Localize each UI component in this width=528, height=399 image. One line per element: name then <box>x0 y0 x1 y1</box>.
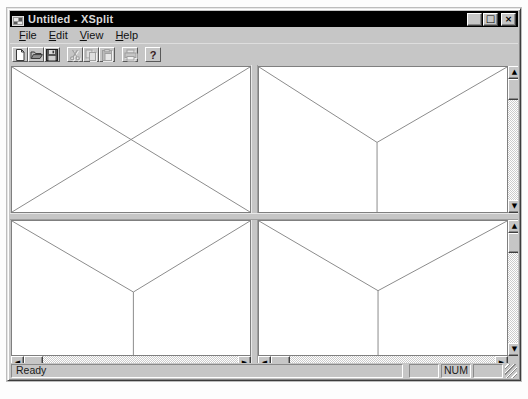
scroll-right-button[interactable]: ► <box>238 356 251 363</box>
scroll-left-button[interactable]: ◄ <box>258 356 271 363</box>
scroll-up-button[interactable]: ▲ <box>508 66 518 79</box>
scroll-up-icon: ▲ <box>512 223 517 230</box>
toolbar: ? <box>10 43 518 65</box>
window-title: Untitled - XSplit <box>28 12 464 26</box>
about-button[interactable]: ? <box>145 47 161 62</box>
splitter-client: ▲ ▼ ▲ ▼ ◄ ► ◄ ► <box>10 65 518 363</box>
open-folder-icon <box>30 49 43 61</box>
scroll-left-icon: ◄ <box>262 359 267 363</box>
horizontal-scrollbar-left[interactable]: ◄ ► <box>11 356 251 363</box>
open-button[interactable] <box>28 47 44 62</box>
vertical-scrollbar-bottom[interactable]: ▲ ▼ <box>508 220 518 356</box>
menu-view[interactable]: View <box>74 29 110 42</box>
scroll-left-button[interactable]: ◄ <box>11 356 24 363</box>
scroll-up-icon: ▲ <box>512 69 517 76</box>
title-bar[interactable]: Untitled - XSplit _ □ × <box>10 11 518 27</box>
toolbar-separator <box>138 45 145 64</box>
copy-pages-icon <box>85 49 97 61</box>
new-document-icon <box>14 49 26 61</box>
toolbar-separator <box>60 45 67 64</box>
close-button[interactable]: × <box>501 13 516 26</box>
pane-top-right-drawing <box>259 67 507 212</box>
status-message: Ready <box>11 364 403 378</box>
pane-bottom-right-drawing <box>259 221 507 355</box>
print-icon <box>124 49 137 61</box>
paste-button <box>99 47 115 62</box>
copy-button <box>83 47 99 62</box>
pane-bottom-left-drawing <box>12 221 250 355</box>
horizontal-scrollbar-thumb[interactable] <box>24 356 43 363</box>
save-floppy-icon <box>46 49 58 61</box>
help-question-icon: ? <box>150 49 157 61</box>
scroll-right-icon: ► <box>242 359 247 363</box>
pane-bottom-left[interactable] <box>11 220 251 356</box>
scroll-down-icon: ▼ <box>512 346 517 353</box>
cut-button <box>67 47 83 62</box>
minimize-button[interactable]: _ <box>467 13 482 26</box>
horizontal-scrollbar-thumb[interactable] <box>271 356 290 363</box>
save-button[interactable] <box>44 47 60 62</box>
horizontal-scrollbar-right[interactable]: ◄ ► <box>258 356 508 363</box>
paste-clipboard-icon <box>101 49 113 61</box>
scroll-down-icon: ▼ <box>512 203 517 210</box>
num-lock-indicator: NUM <box>441 364 471 378</box>
menu-bar: File Edit View Help <box>10 27 518 43</box>
menu-file[interactable]: File <box>13 29 43 42</box>
scroll-up-button[interactable]: ▲ <box>508 220 518 233</box>
new-button[interactable] <box>12 47 28 62</box>
scroll-down-button[interactable]: ▼ <box>508 200 518 213</box>
caps-lock-indicator <box>409 364 439 378</box>
pane-bottom-right[interactable] <box>258 220 508 356</box>
scroll-down-button[interactable]: ▼ <box>508 343 518 356</box>
status-bar: Ready NUM <box>10 363 518 378</box>
horizontal-splitter-bar[interactable] <box>10 213 518 220</box>
scrollbar-corner <box>508 356 518 363</box>
vertical-scrollbar-thumb[interactable] <box>508 233 518 253</box>
scroll-left-icon: ◄ <box>15 359 20 363</box>
pane-top-right[interactable] <box>258 66 508 213</box>
scroll-lock-indicator <box>473 364 503 378</box>
vertical-scrollbar-thumb[interactable] <box>508 79 518 100</box>
scroll-right-button[interactable]: ► <box>495 356 508 363</box>
maximize-button[interactable]: □ <box>483 13 498 26</box>
menu-help[interactable]: Help <box>109 29 144 42</box>
print-button <box>122 47 138 62</box>
pane-top-left[interactable] <box>11 66 251 213</box>
vertical-scrollbar-top[interactable]: ▲ ▼ <box>508 66 518 213</box>
resize-grip[interactable] <box>505 364 517 378</box>
menu-edit[interactable]: Edit <box>43 29 74 42</box>
app-window: Untitled - XSplit _ □ × File Edit View H… <box>7 8 521 381</box>
app-icon <box>12 13 25 25</box>
pane-top-left-drawing <box>12 67 250 212</box>
scroll-right-icon: ► <box>499 359 504 363</box>
toolbar-separator <box>115 45 122 64</box>
cut-scissors-icon <box>69 49 81 61</box>
